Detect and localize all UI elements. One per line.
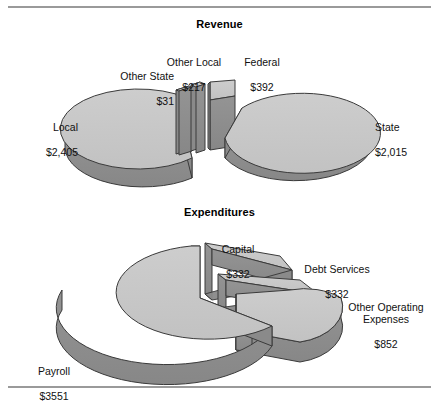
revenue-label-other-local-name: Other Local (158, 56, 230, 69)
revenue-label-state-name: State (375, 121, 437, 134)
top-divider-rule (8, 6, 431, 8)
revenue-slice-state (225, 93, 380, 180)
revenue-label-federal-value: $392 (231, 81, 293, 94)
expenditures-label-debt-services-name: Debt Services (288, 263, 386, 276)
revenue-chart-title: Revenue (0, 18, 439, 30)
expenditures-label-other-operating-expenses-name: Other Operating Expenses (336, 301, 436, 326)
expenditures-label-capital-name: Capital (205, 243, 271, 256)
expenditures-label-capital-value: $332 (205, 268, 271, 281)
expenditures-label-other-operating-expenses-value: $852 (336, 338, 436, 351)
revenue-label-federal-name: Federal (231, 56, 293, 69)
expenditures-chart-title: Expenditures (0, 206, 439, 218)
expenditures-label-payroll-value: $3551 (18, 390, 90, 403)
revenue-label-local-name: Local (6, 121, 78, 134)
expenditures-label-payroll-name: Payroll (18, 365, 90, 378)
revenue-label-other-local-value: $217 (158, 81, 230, 94)
revenue-label-state-value: $2,015 (375, 146, 437, 159)
expenditures-label-payroll: Payroll $3551 (18, 352, 90, 405)
revenue-label-federal: Federal $392 (231, 43, 293, 106)
revenue-label-local: Local $2,405 (6, 108, 78, 171)
expenditures-label-other-operating-expenses: Other Operating Expenses $852 (336, 288, 436, 363)
revenue-label-state: State $2,015 (375, 108, 437, 171)
revenue-label-other-local: Other Local $217 (158, 43, 230, 106)
expenditures-label-capital: Capital $332 (205, 230, 271, 293)
revenue-label-local-value: $2,405 (6, 146, 78, 159)
